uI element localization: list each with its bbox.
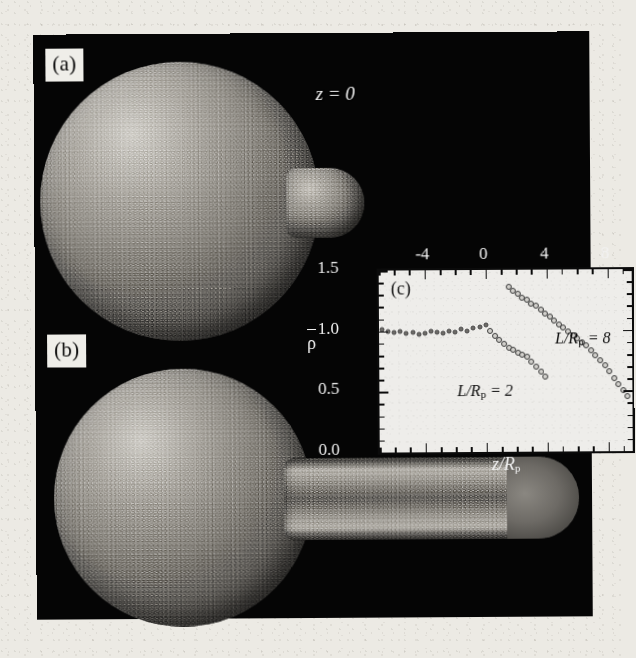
- y-tick: [379, 404, 384, 406]
- particle-texture-fine: [39, 61, 320, 342]
- y-tick: [628, 415, 633, 417]
- data-point: [465, 328, 470, 333]
- y-tick: [627, 378, 632, 380]
- x-tick: [456, 447, 458, 452]
- y-tick: [627, 318, 632, 320]
- data-point: [471, 326, 476, 331]
- x-tick: [485, 270, 487, 279]
- series-l8-num: L: [555, 329, 564, 346]
- series-l2-den: R: [471, 382, 481, 399]
- z-zero-annotation: z = 0: [316, 83, 355, 105]
- x-tick: [409, 270, 411, 275]
- y-tick: [623, 390, 632, 392]
- y-tick: [628, 439, 633, 441]
- x-tick: [455, 270, 457, 275]
- particle-texture-fine: [286, 168, 364, 238]
- panel-c-label: (c): [391, 278, 411, 299]
- x-tick: [395, 447, 397, 452]
- data-point: [422, 331, 427, 336]
- y-tick: [627, 281, 632, 283]
- plot-area: (c) L/Rp = 8 L/Rp = 2: [377, 267, 635, 455]
- x-tick: [592, 269, 594, 274]
- series-l2-num: L: [457, 382, 466, 399]
- y-tick: [627, 342, 632, 344]
- y-tick-label: 1.0: [318, 318, 339, 338]
- data-point: [483, 322, 488, 327]
- figure-plate: (a) z = 0 (b) ρ z/Rp (c) L/Rp = 8 L/Rp =…: [33, 31, 593, 619]
- y-tick: [623, 330, 632, 332]
- x-tick: [502, 447, 504, 452]
- data-points-layer: [379, 269, 632, 271]
- series-l2-eq: =: [486, 382, 505, 399]
- x-tick: [546, 270, 548, 279]
- y-axis-title-text: ρ: [307, 333, 316, 353]
- data-point: [459, 327, 464, 332]
- y-tick: [623, 269, 632, 271]
- y-tick: [627, 366, 632, 368]
- y-tick: [380, 416, 385, 418]
- x-tick: [578, 446, 580, 451]
- data-point: [404, 331, 409, 336]
- series-l8-den: R: [568, 329, 578, 346]
- x-tick: [410, 447, 412, 452]
- panel-b-label: (b): [47, 334, 86, 367]
- panel-a-neck: [286, 168, 364, 238]
- y-tick-label: 1.5: [317, 258, 338, 278]
- y-tick-label: 0.0: [318, 440, 339, 460]
- data-point: [416, 332, 421, 337]
- rho-overbar: [307, 329, 316, 332]
- x-axis-title-den: R: [504, 454, 515, 474]
- series-label-l2: L/Rp = 2: [457, 382, 513, 400]
- y-tick: [379, 331, 388, 333]
- plot-background-noise: [379, 269, 633, 453]
- x-tick: [532, 447, 534, 452]
- series-label-l8: L/Rp = 8: [555, 329, 611, 347]
- x-tick: [577, 269, 579, 274]
- x-tick: [441, 447, 443, 452]
- data-point: [616, 381, 622, 387]
- data-point: [441, 331, 446, 336]
- data-point: [447, 328, 452, 333]
- y-tick: [379, 295, 384, 297]
- series-l2-val: 2: [505, 382, 513, 399]
- series-l8-val: 8: [602, 329, 610, 346]
- axis-tick-labels-layer: 0.00.51.01.5-4048: [340, 231, 630, 233]
- y-tick: [627, 354, 632, 356]
- data-point: [606, 368, 612, 374]
- axis-ticks-layer: [379, 269, 632, 271]
- y-tick: [379, 271, 388, 273]
- y-tick: [380, 428, 385, 430]
- x-tick: [517, 447, 519, 452]
- y-tick: [379, 355, 384, 357]
- y-axis-title: ρ: [307, 329, 316, 354]
- y-tick: [379, 343, 384, 345]
- data-point: [477, 324, 482, 329]
- x-tick: [531, 270, 533, 275]
- x-tick: [607, 269, 609, 278]
- y-tick: [379, 368, 384, 370]
- y-tick: [379, 392, 388, 394]
- data-point: [611, 375, 617, 381]
- y-tick: [627, 305, 632, 307]
- data-point: [434, 330, 439, 335]
- x-tick: [593, 446, 595, 451]
- x-tick: [563, 446, 565, 451]
- x-tick: [547, 443, 549, 452]
- x-tick: [516, 270, 518, 275]
- x-tick: [608, 442, 610, 451]
- y-tick: [627, 403, 632, 405]
- y-tick: [379, 283, 384, 285]
- y-tick: [379, 380, 384, 382]
- data-point: [542, 373, 548, 379]
- data-point: [410, 330, 415, 335]
- panel-a-label: (a): [45, 48, 83, 81]
- x-tick: [501, 270, 503, 275]
- data-point: [453, 329, 458, 334]
- y-tick: [380, 453, 389, 455]
- x-tick: [425, 443, 427, 452]
- y-tick: [380, 440, 385, 442]
- y-tick: [624, 451, 633, 453]
- y-tick: [379, 319, 384, 321]
- series-l8-eq: =: [584, 329, 603, 346]
- y-tick: [627, 293, 632, 295]
